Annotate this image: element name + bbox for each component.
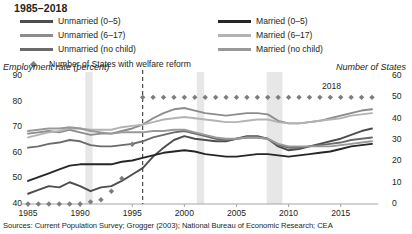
welfare-reform-marker-1985 <box>25 201 30 206</box>
welfare-reform-marker-2006 <box>244 95 249 100</box>
y-tick-label-left-80: 80 <box>6 96 22 106</box>
y-tick-label-right-20: 20 <box>392 155 408 165</box>
welfare-reform-marker-2014 <box>328 95 333 100</box>
y-tick-label-right-50: 50 <box>392 91 408 101</box>
y-tick-label-right-40: 40 <box>392 113 408 123</box>
welfare-reform-marker-2005 <box>234 95 239 100</box>
x-tick-label-1995: 1995 <box>117 208 147 218</box>
welfare-reform-marker-2010 <box>286 95 291 100</box>
welfare-reform-marker-2000 <box>182 95 187 100</box>
welfare-reform-marker-2004 <box>223 95 228 100</box>
welfare-reform-marker-1997 <box>150 95 155 100</box>
x-tick-label-1990: 1990 <box>65 208 95 218</box>
welfare-reform-marker-2007 <box>255 95 260 100</box>
x-tick-label-1985: 1985 <box>13 208 43 218</box>
welfare-reform-marker-1990 <box>77 201 82 206</box>
welfare-reform-marker-2017 <box>359 95 364 100</box>
welfare-reform-marker-2018 <box>369 95 374 100</box>
y-tick-label-left-90: 90 <box>6 70 22 80</box>
x-tick-label-2005: 2005 <box>221 208 251 218</box>
y-tick-label-right-60: 60 <box>392 70 408 80</box>
welfare-reform-marker-2012 <box>307 95 312 100</box>
welfare-reform-marker-2001 <box>192 95 197 100</box>
sources-note: Sources: Current Population Survey; Grog… <box>3 221 333 230</box>
welfare-reform-marker-2016 <box>348 95 353 100</box>
y-tick-label-left-40: 40 <box>6 198 22 208</box>
welfare-reform-marker-1988 <box>57 201 62 206</box>
recession-band-2 <box>267 72 283 204</box>
welfare-reform-marker-1986 <box>36 201 41 206</box>
welfare-reform-marker-2011 <box>296 95 301 100</box>
welfare-reform-marker-1987 <box>46 201 51 206</box>
x-tick-label-2000: 2000 <box>169 208 199 218</box>
y-tick-label-right-10: 10 <box>392 177 408 187</box>
recession-band-1 <box>197 72 204 204</box>
recession-band-0 <box>85 72 92 204</box>
welfare-reform-marker-1993 <box>109 189 114 194</box>
x-tick-label-2015: 2015 <box>326 208 356 218</box>
x-tick-label-2010: 2010 <box>274 208 304 218</box>
y-tick-label-right-30: 30 <box>392 134 408 144</box>
y-tick-label-left-50: 50 <box>6 172 22 182</box>
welfare-reform-marker-1996 <box>140 95 145 100</box>
welfare-reform-marker-1998 <box>161 95 166 100</box>
welfare-reform-marker-1995 <box>130 142 135 147</box>
y-tick-label-left-70: 70 <box>6 121 22 131</box>
welfare-reform-marker-2015 <box>338 95 343 100</box>
welfare-reform-marker-1999 <box>171 95 176 100</box>
welfare-reform-marker-1992 <box>98 197 103 202</box>
welfare-reform-marker-2003 <box>213 95 218 100</box>
y-tick-label-right-0: 0 <box>392 198 408 208</box>
welfare-reform-marker-2013 <box>317 95 322 100</box>
welfare-reform-marker-1989 <box>67 201 72 206</box>
chart-plot-area <box>0 0 412 234</box>
y-tick-label-left-60: 60 <box>6 147 22 157</box>
